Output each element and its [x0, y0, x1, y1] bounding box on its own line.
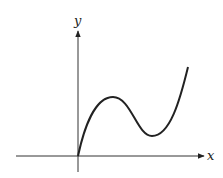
- y-axis-label: y: [73, 13, 82, 28]
- function-graph: x y: [0, 0, 223, 178]
- function-curve: [78, 67, 188, 156]
- x-axis-label: x: [207, 148, 215, 163]
